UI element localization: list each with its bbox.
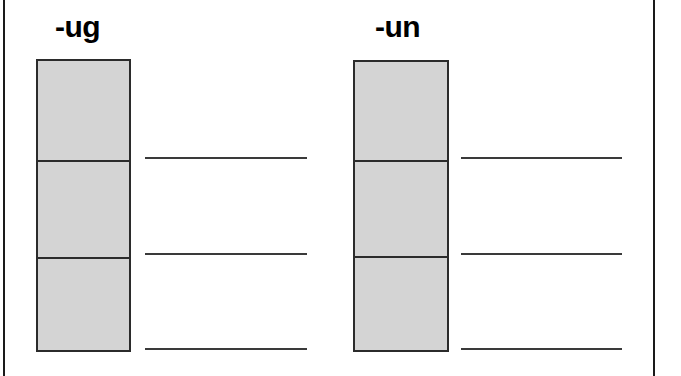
word-family-worksheet: -ug -un <box>0 0 681 376</box>
letter-box-divider-1-2 <box>38 257 129 259</box>
letter-box-divider-2-2 <box>355 256 447 258</box>
letter-box-stack-1[interactable] <box>36 59 131 352</box>
letter-box-divider-2-1 <box>355 160 447 162</box>
letter-box-stack-2[interactable] <box>353 60 449 352</box>
writing-line-1-1[interactable] <box>145 157 307 159</box>
writing-line-2-3[interactable] <box>461 348 622 350</box>
writing-line-2-2[interactable] <box>461 253 622 255</box>
writing-line-1-2[interactable] <box>145 253 307 255</box>
writing-line-2-1[interactable] <box>461 157 622 159</box>
group-label-2: -un <box>375 12 420 42</box>
page-border-left <box>3 0 5 376</box>
group-label-1: -ug <box>55 12 100 42</box>
page-border-right <box>653 0 655 376</box>
writing-line-1-3[interactable] <box>145 348 307 350</box>
letter-box-divider-1-1 <box>38 160 129 162</box>
